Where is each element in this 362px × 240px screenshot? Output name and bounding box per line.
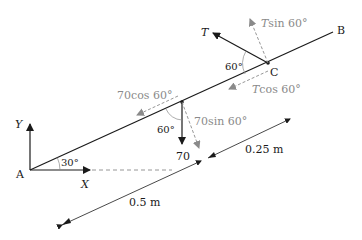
tension-label: T bbox=[201, 26, 210, 39]
point-b-label: B bbox=[337, 24, 345, 37]
weight-cos-label: 70cos 60° bbox=[117, 89, 172, 102]
angle-arc-30 bbox=[57, 158, 60, 170]
x-axis-label: X bbox=[80, 178, 90, 191]
dimension-arrowhead bbox=[62, 218, 71, 225]
dimension-label-0-5m: 0.5 m bbox=[129, 196, 161, 209]
angle-label-60-mid: 60° bbox=[157, 124, 175, 135]
tension-sin-label: Tsin 60° bbox=[261, 17, 308, 30]
tension-arrow bbox=[213, 33, 268, 63]
tension-cos-label: Tcos 60° bbox=[252, 83, 301, 96]
dimension-label-0-25m: 0.25 m bbox=[245, 143, 284, 156]
beam-force-diagram: A B C Y X 30° 60° 60° T Tsin 60° Tcos 60… bbox=[0, 0, 362, 240]
angle-label-60-c: 60° bbox=[225, 61, 243, 72]
angle-arc-60-c bbox=[243, 51, 246, 74]
angle-label-30: 30° bbox=[61, 157, 79, 168]
y-axis-label: Y bbox=[15, 118, 24, 131]
weight-label: 70 bbox=[176, 150, 190, 163]
dimension-arrowhead bbox=[208, 152, 216, 158]
point-a-label: A bbox=[15, 168, 25, 181]
angle-arc-60-mid bbox=[166, 109, 182, 120]
point-c-label: C bbox=[270, 66, 278, 79]
weight-sin-label: 70sin 60° bbox=[194, 115, 247, 128]
